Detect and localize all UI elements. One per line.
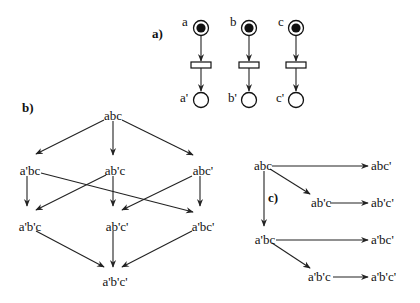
state-node: a'bc'	[371, 232, 394, 247]
edge	[36, 231, 104, 267]
place-label-b: b	[230, 14, 237, 29]
state-node: a'b'c	[19, 219, 42, 234]
token-icon	[196, 23, 205, 32]
state-lattice-part-b: b) abc a'bc ab'c abc' a'b'c ab'c' a'bc' …	[19, 100, 215, 289]
state-node: a'bc'	[192, 219, 215, 234]
token-icon	[244, 23, 253, 32]
part-a-label: a)	[152, 26, 163, 41]
state-node: abc	[104, 108, 122, 123]
place-label-a: a	[182, 14, 188, 29]
state-node: a'bc	[20, 163, 41, 178]
place-b-prime	[242, 93, 257, 108]
state-node: abc'	[193, 163, 213, 178]
state-node: ab'c'	[106, 219, 129, 234]
place-c-prime	[289, 93, 304, 108]
state-node: ab'c	[311, 195, 332, 210]
place-label-b-prime: b'	[228, 90, 237, 105]
place-a-prime	[194, 93, 209, 108]
state-node: ab'c'	[371, 195, 394, 210]
state-node: a'b'c	[308, 269, 331, 284]
state-node: ab'c	[105, 163, 126, 178]
part-b-label: b)	[22, 100, 34, 115]
edge	[272, 243, 310, 268]
edge	[36, 120, 104, 154]
transition	[286, 62, 306, 68]
petri-column-c: c c'	[276, 14, 306, 108]
place-label-a-prime: a'	[180, 90, 188, 105]
petri-column-b: b b'	[228, 14, 259, 108]
diagram-canvas: a) a a' b b' c	[0, 0, 420, 303]
petri-column-a: a a'	[180, 14, 211, 108]
edge	[122, 176, 192, 210]
edge	[122, 120, 193, 155]
place-label-c-prime: c'	[276, 90, 284, 105]
state-node: a'bc	[255, 232, 276, 247]
edge	[41, 173, 193, 212]
reduced-graph-part-c: c) abc abc' ab'c ab'c' a'bc a'bc' a'b'c …	[254, 158, 396, 284]
state-node: abc'	[371, 158, 391, 173]
state-node: a'b'c'	[102, 274, 127, 289]
state-node: abc	[254, 158, 272, 173]
petri-net-part-a: a) a a' b b' c	[152, 14, 306, 108]
edge	[122, 231, 192, 267]
token-icon	[291, 23, 300, 32]
transition	[191, 62, 211, 68]
part-c-label: c)	[268, 190, 278, 205]
state-node: a'b'c'	[371, 269, 396, 284]
place-label-c: c	[278, 14, 284, 29]
transition	[239, 62, 259, 68]
